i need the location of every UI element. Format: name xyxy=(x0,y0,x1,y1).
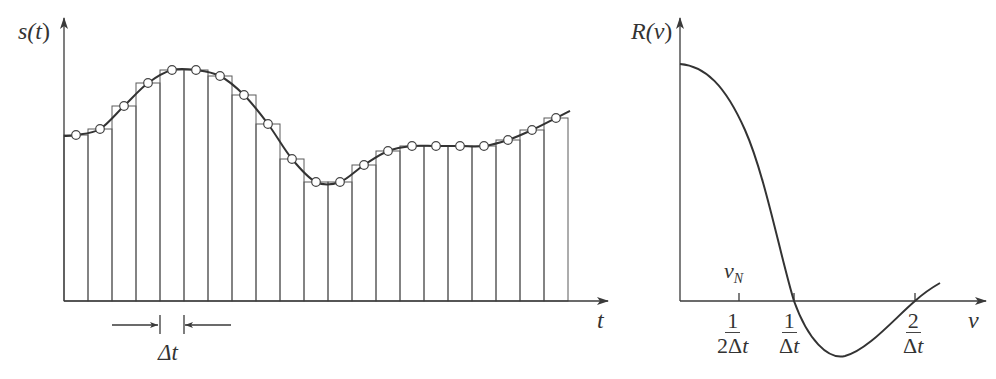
sample-point xyxy=(384,147,393,156)
sample-bar xyxy=(352,165,376,301)
sample-point xyxy=(192,66,201,75)
sample-point xyxy=(528,126,537,135)
right-chart xyxy=(680,18,986,357)
sample-point xyxy=(72,131,81,140)
sample-point xyxy=(216,72,225,81)
signal-curve xyxy=(64,69,570,185)
nyquist-subscript: N xyxy=(734,271,743,286)
sample-point xyxy=(144,79,153,88)
right-y-axis-label: R(ν) xyxy=(631,18,672,45)
sample-bar xyxy=(208,76,232,301)
sample-bar xyxy=(256,124,280,301)
sample-point xyxy=(264,120,273,129)
nyquist-label: νN xyxy=(724,258,743,287)
sample-bar xyxy=(376,151,400,301)
sample-point xyxy=(312,178,321,187)
tick1-denominator: 2Δt xyxy=(717,333,748,357)
sample-bar xyxy=(280,159,304,301)
right-y-label-close: ) xyxy=(664,18,672,44)
tick-label-two-over-dt: 2 Δt xyxy=(903,310,923,357)
sample-point xyxy=(432,142,441,151)
sample-bar xyxy=(520,130,544,301)
figure-canvas xyxy=(0,0,996,379)
sample-bar xyxy=(544,118,568,301)
sample-bar xyxy=(448,146,472,301)
sample-bar xyxy=(472,146,496,301)
left-y-label-var: t xyxy=(35,18,42,44)
sample-point xyxy=(480,142,489,151)
right-y-label-var: ν xyxy=(654,18,665,44)
right-x-axis-label: ν xyxy=(968,307,979,334)
tick-label-one-over-dt: 1 Δt xyxy=(779,310,799,357)
sample-point xyxy=(288,155,297,164)
sample-point xyxy=(168,66,177,75)
tick3-denominator: Δt xyxy=(903,333,923,357)
sample-bar xyxy=(160,70,184,301)
sample-bar xyxy=(232,95,256,301)
tick3-den-a: Δ xyxy=(903,333,917,358)
sample-bar xyxy=(424,146,448,301)
sample-point xyxy=(120,102,129,111)
delta-t-label: Δt xyxy=(158,340,178,366)
sample-bar xyxy=(88,129,112,301)
tick-label-half-over-dt: 1 2Δt xyxy=(717,310,748,357)
sample-point xyxy=(96,125,105,134)
tick1-den-b: t xyxy=(742,333,748,358)
sample-bar xyxy=(328,182,352,301)
sample-point xyxy=(408,142,417,151)
left-x-axis-label: t xyxy=(597,307,604,334)
right-y-label-prefix: R( xyxy=(631,18,654,44)
tick3-numerator: 2 xyxy=(906,310,921,333)
left-y-label-close: ) xyxy=(42,18,50,44)
tick1-den-a: 2Δ xyxy=(717,333,742,358)
sample-point xyxy=(336,178,345,187)
left-y-label-prefix: s( xyxy=(18,18,35,44)
sample-bar xyxy=(136,83,160,301)
sample-bar xyxy=(64,135,88,301)
sample-bar xyxy=(112,106,136,301)
sample-bar xyxy=(400,146,424,301)
left-chart xyxy=(64,18,608,334)
tick2-denominator: Δt xyxy=(779,333,799,357)
sample-point xyxy=(504,136,513,145)
sample-point xyxy=(456,142,465,151)
tick3-den-b: t xyxy=(917,333,923,358)
sample-bar xyxy=(184,70,208,301)
sample-point xyxy=(552,114,561,123)
tick1-numerator: 1 xyxy=(725,310,740,333)
sample-bar xyxy=(304,182,328,301)
sample-point xyxy=(240,91,249,100)
nyquist-nu: ν xyxy=(724,258,734,283)
sample-point xyxy=(360,161,369,170)
tick2-den-a: Δ xyxy=(779,333,793,358)
sample-bar xyxy=(496,140,520,301)
tick2-den-b: t xyxy=(793,333,799,358)
tick2-numerator: 1 xyxy=(782,310,797,333)
left-y-axis-label: s(t) xyxy=(18,18,50,45)
sample-points xyxy=(72,66,561,187)
